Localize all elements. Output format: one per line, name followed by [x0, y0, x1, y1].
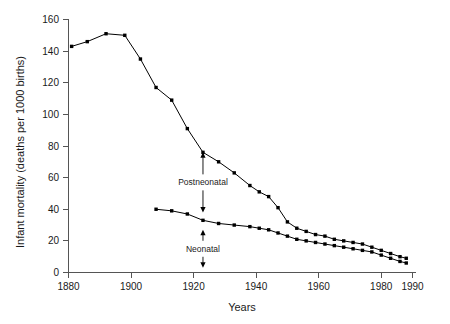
data-point-marker: [361, 249, 364, 252]
data-point-marker: [286, 234, 289, 237]
data-point-marker: [370, 250, 373, 253]
data-point-marker: [170, 209, 173, 212]
data-point-marker: [217, 222, 220, 225]
annotation-arrowhead-down: [200, 207, 205, 213]
annotation-label: Neonatal: [186, 244, 220, 254]
data-point-marker: [139, 57, 142, 60]
data-point-marker: [258, 227, 261, 230]
x-tick-label: 1960: [308, 281, 331, 292]
infant-mortality-chart: 020406080100120140160 188019001920194019…: [0, 0, 450, 324]
x-tick-label: 1900: [120, 281, 143, 292]
data-point-marker: [233, 223, 236, 226]
series-polyline: [156, 209, 406, 263]
data-point-marker: [186, 212, 189, 215]
x-tick-label: 1980: [370, 281, 393, 292]
annotation-label: Postneonatal: [178, 177, 228, 187]
x-tick-label: 1920: [182, 281, 205, 292]
data-point-marker: [304, 239, 307, 242]
data-point-marker: [267, 195, 270, 198]
x-axis-title: Years: [228, 301, 256, 313]
x-axis-ticks: 1880190019201940196019801990: [57, 273, 424, 293]
chart-plot-area: 020406080100120140160 188019001920194019…: [0, 0, 450, 324]
y-axis-title: Infant mortality (deaths per 1000 births…: [14, 56, 26, 248]
series-2: [154, 208, 408, 265]
data-point-marker: [323, 234, 326, 237]
data-point-marker: [398, 260, 401, 263]
data-point-marker: [304, 230, 307, 233]
data-point-marker: [276, 206, 279, 209]
data-point-marker: [370, 246, 373, 249]
data-point-marker: [258, 190, 261, 193]
series-polyline: [72, 34, 407, 259]
axes-group: [69, 19, 417, 273]
data-point-marker: [70, 45, 73, 48]
data-point-marker: [123, 34, 126, 37]
annotation-arrowhead-down: [200, 262, 205, 268]
data-point-marker: [314, 233, 317, 236]
annotation-neonatal: Neonatal: [186, 230, 220, 268]
data-point-marker: [405, 257, 408, 260]
data-point-marker: [398, 255, 401, 258]
data-series-layer: [70, 32, 408, 265]
data-point-marker: [314, 241, 317, 244]
data-point-marker: [267, 228, 270, 231]
data-point-marker: [351, 247, 354, 250]
data-point-marker: [104, 32, 107, 35]
data-point-marker: [248, 225, 251, 228]
data-point-marker: [248, 184, 251, 187]
x-tick-label: 1990: [401, 281, 424, 292]
data-point-marker: [276, 231, 279, 234]
data-point-marker: [389, 257, 392, 260]
x-tick-label: 1940: [245, 281, 268, 292]
data-point-marker: [333, 244, 336, 247]
data-point-marker: [295, 227, 298, 230]
data-point-marker: [323, 242, 326, 245]
data-point-marker: [333, 238, 336, 241]
data-point-marker: [201, 219, 204, 222]
data-point-marker: [217, 160, 220, 163]
data-point-marker: [170, 98, 173, 101]
y-axis-ticks: 020406080100120140160: [42, 14, 68, 278]
y-tick-label: 160: [42, 14, 59, 25]
data-point-marker: [342, 246, 345, 249]
annotations-layer: PostneonatalNeonatal: [178, 152, 228, 267]
y-tick-label: 120: [42, 77, 59, 88]
data-point-marker: [389, 252, 392, 255]
data-point-marker: [154, 208, 157, 211]
data-point-marker: [380, 249, 383, 252]
y-tick-label: 20: [48, 235, 60, 246]
annotation-postneonatal: Postneonatal: [178, 152, 228, 212]
annotation-arrowhead-up: [200, 230, 205, 236]
data-point-marker: [295, 238, 298, 241]
data-point-marker: [154, 86, 157, 89]
data-point-marker: [186, 127, 189, 130]
y-tick-label: 100: [42, 109, 59, 120]
data-point-marker: [380, 253, 383, 256]
y-tick-label: 0: [53, 267, 59, 278]
data-point-marker: [86, 40, 89, 43]
y-tick-label: 40: [48, 204, 60, 215]
y-tick-label: 60: [48, 172, 60, 183]
data-point-marker: [405, 261, 408, 264]
y-tick-label: 80: [48, 141, 60, 152]
data-point-marker: [342, 239, 345, 242]
y-tick-label: 140: [42, 46, 59, 57]
data-point-marker: [361, 242, 364, 245]
x-tick-label: 1880: [57, 281, 80, 292]
data-point-marker: [233, 171, 236, 174]
data-point-marker: [286, 220, 289, 223]
data-point-marker: [351, 241, 354, 244]
